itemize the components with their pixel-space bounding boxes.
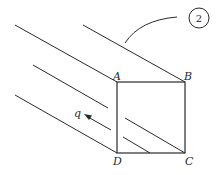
hidden-line xyxy=(33,65,108,108)
edge-line-a xyxy=(15,25,117,82)
duct-diagram: 2 A B C D q xyxy=(0,0,219,175)
vertex-label-b: B xyxy=(183,70,192,83)
flow-arrow-shaft xyxy=(88,117,111,130)
flow-label: q xyxy=(74,107,81,120)
edge-line-d xyxy=(15,95,117,153)
face-line-c xyxy=(125,118,185,153)
vertex-label-c: C xyxy=(185,155,194,168)
vertex-label-a: A xyxy=(112,70,121,83)
cross-section-square xyxy=(117,82,185,153)
edge-line-b xyxy=(83,25,185,82)
vertex-label-d: D xyxy=(112,155,122,168)
callout-leader xyxy=(125,17,177,43)
callout-number: 2 xyxy=(196,13,202,24)
face-line-short xyxy=(123,137,150,153)
